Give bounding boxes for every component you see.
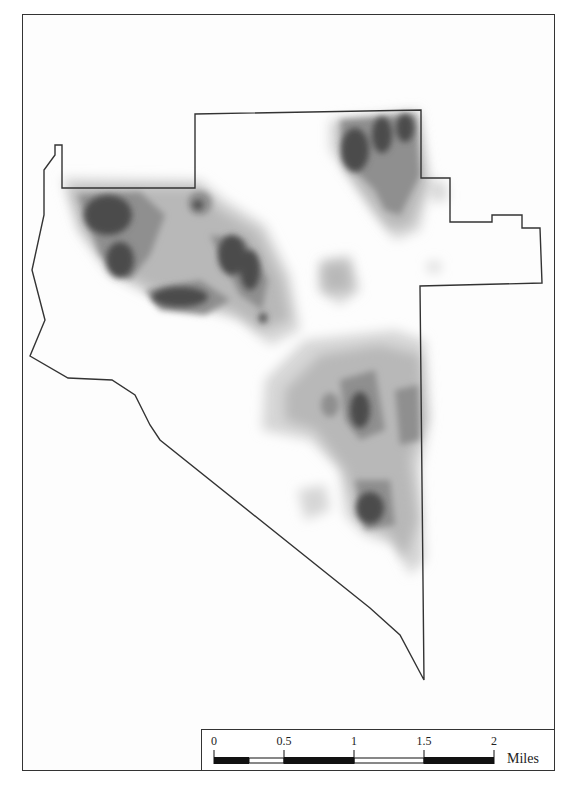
heat-map (0, 0, 572, 785)
scale-units-label: Miles (507, 751, 539, 767)
scale-bar: 0 0.5 1 1.5 2 Miles (201, 729, 555, 771)
scale-bar-graphic (202, 730, 556, 772)
